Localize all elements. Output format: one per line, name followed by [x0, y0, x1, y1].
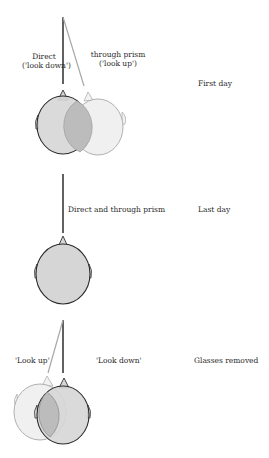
condition-last-day: Last day	[198, 205, 230, 214]
label-direct-and-prism: Direct and through prism	[68, 205, 165, 214]
label-direct-line1: Direct	[22, 52, 66, 61]
condition-first-day: First day	[198, 79, 232, 88]
look-up-gaze-line	[48, 320, 63, 373]
prism-gaze-line	[63, 17, 84, 86]
panel-first-day	[35, 17, 125, 155]
head-adapted-icon	[34, 236, 91, 304]
panel-glasses-removed	[14, 320, 91, 444]
label-look-down: 'Look down'	[96, 356, 142, 365]
condition-glasses-removed: Glasses removed	[194, 356, 258, 365]
label-direct: Direct ('look down')	[22, 52, 66, 70]
label-through-prism: through prism ('look up')	[90, 50, 146, 68]
head-direct-icon	[35, 90, 92, 154]
label-prism-line1: through prism	[90, 50, 146, 59]
label-look-up: 'Look up'	[15, 356, 50, 365]
label-direct-line2: ('look down')	[22, 61, 66, 70]
label-prism-line2: ('look up')	[90, 59, 146, 68]
panel-last-day	[34, 174, 91, 304]
